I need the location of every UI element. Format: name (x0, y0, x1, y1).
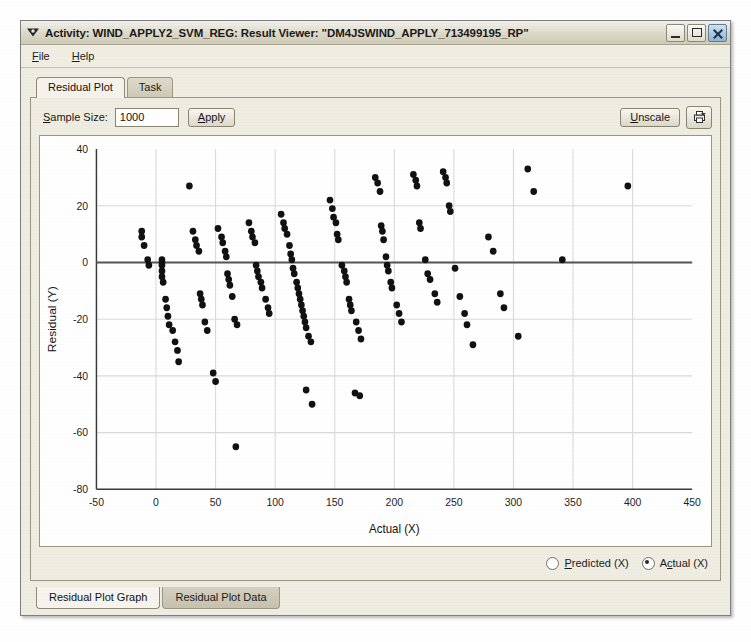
window-controls (666, 24, 727, 42)
x-tick-label: -50 (89, 495, 104, 507)
tab-residual-plot[interactable]: Residual Plot (36, 77, 125, 98)
data-point (329, 205, 336, 212)
y-tick-label: 40 (76, 143, 88, 155)
y-tick-label: -80 (73, 483, 88, 495)
data-point (356, 392, 363, 399)
data-point (232, 443, 239, 450)
data-point (380, 236, 387, 243)
data-point (377, 188, 384, 195)
tab-residual-plot-graph[interactable]: Residual Plot Graph (36, 587, 160, 609)
data-point (524, 165, 531, 172)
data-point (286, 242, 293, 249)
data-point (452, 265, 459, 272)
radio-actual-x[interactable]: Actual (X) (642, 557, 708, 570)
x-axis-title: Actual (X) (369, 522, 420, 535)
controls-row: Sample Size: Apply Unscale (39, 105, 712, 129)
data-point (288, 256, 295, 263)
radio-predicted-x[interactable]: Predicted (X) (546, 557, 628, 570)
data-point (396, 310, 403, 317)
data-point (485, 233, 492, 240)
sample-size-input[interactable] (115, 108, 179, 127)
data-point (383, 253, 390, 260)
data-point (414, 182, 421, 189)
data-point (278, 211, 285, 218)
y-tick-label: -20 (73, 313, 88, 325)
data-point (497, 290, 504, 297)
data-point (146, 262, 153, 269)
x-tick-label: 150 (326, 495, 343, 507)
data-point (291, 270, 298, 277)
data-point (175, 358, 182, 365)
print-button[interactable] (686, 106, 712, 129)
data-point (215, 225, 222, 232)
screenshot-root: Activity: WIND_APPLY2_SVM_REG: Result Vi… (0, 0, 751, 642)
x-tick-label: 250 (445, 495, 462, 507)
window-titlebar[interactable]: Activity: WIND_APPLY2_SVM_REG: Result Vi… (21, 21, 730, 45)
data-point (172, 338, 179, 345)
data-point (422, 256, 429, 263)
x-tick-label: 200 (386, 495, 403, 507)
data-point (284, 231, 291, 238)
data-point (210, 370, 217, 377)
axis-source-radiogroup: Predicted (X) Actual (X) (39, 552, 712, 574)
data-point (229, 293, 236, 300)
data-point (389, 285, 396, 292)
data-point (163, 304, 170, 311)
data-point (169, 327, 176, 334)
data-point (443, 180, 450, 187)
apply-button[interactable]: Apply (188, 108, 236, 127)
bottom-tabstrip: Residual Plot Graph Residual Plot Data (30, 587, 721, 609)
data-point (234, 321, 241, 328)
x-tick-label: 300 (505, 495, 522, 507)
x-tick-label: 0 (153, 495, 159, 507)
data-point (379, 228, 386, 235)
tab-residual-plot-data[interactable]: Residual Plot Data (162, 587, 279, 609)
menu-help[interactable]: Help (69, 48, 98, 64)
x-tick-label: 50 (210, 495, 222, 507)
data-point (246, 219, 253, 226)
y-tick-label: -40 (73, 370, 88, 382)
data-point (385, 268, 392, 275)
data-point (303, 324, 310, 331)
data-point (461, 310, 468, 317)
x-tick-label: 350 (564, 495, 581, 507)
close-button[interactable] (708, 24, 727, 42)
data-point (470, 341, 477, 348)
data-point (174, 347, 181, 354)
result-viewer-window: Activity: WIND_APPLY2_SVM_REG: Result Vi… (20, 20, 731, 616)
data-point (431, 290, 438, 297)
y-tick-label: 20 (76, 199, 88, 211)
data-point (141, 242, 148, 249)
sample-size-label: Sample Size: (43, 111, 108, 123)
minimize-button[interactable] (666, 24, 685, 42)
print-icon (692, 110, 707, 124)
data-point (333, 219, 340, 226)
data-point (262, 296, 269, 303)
menu-file[interactable]: File (29, 48, 53, 64)
x-tick-label: 400 (624, 495, 641, 507)
data-point (204, 327, 211, 334)
data-point (355, 327, 362, 334)
tab-task[interactable]: Task (127, 77, 174, 97)
unscale-button[interactable]: Unscale (620, 108, 680, 127)
data-point (199, 302, 206, 309)
window-title: Activity: WIND_APPLY2_SVM_REG: Result Vi… (45, 27, 666, 39)
radio-dot-predicted (546, 557, 559, 570)
x-tick-label: 450 (683, 495, 700, 507)
residual-scatter-chart[interactable]: -50050100150200250300350400450-80-60-40-… (39, 135, 712, 547)
radio-label-actual: Actual (X) (660, 557, 708, 569)
chart-canvas: -50050100150200250300350400450-80-60-40-… (40, 136, 711, 546)
data-point (165, 313, 172, 320)
data-point (417, 225, 424, 232)
data-point (162, 296, 169, 303)
data-point (196, 248, 203, 255)
data-point (223, 253, 230, 260)
data-point (190, 228, 197, 235)
data-point (212, 378, 219, 385)
data-point (343, 279, 350, 286)
data-point (219, 239, 226, 246)
data-point (559, 256, 566, 263)
maximize-button[interactable] (687, 24, 706, 42)
data-point (625, 182, 632, 189)
y-tick-label: -60 (73, 426, 88, 438)
